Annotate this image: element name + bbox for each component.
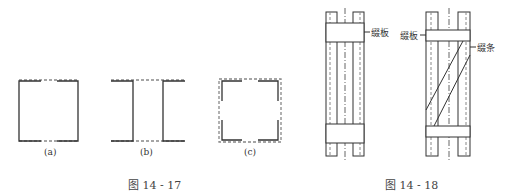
figure-14-17a xyxy=(19,80,78,141)
figure-14-17c xyxy=(219,79,281,142)
subfigure-label-b: (b) xyxy=(140,147,153,157)
lacing-bar-label: 缀条 xyxy=(477,41,495,54)
diagram-canvas xyxy=(0,0,508,196)
batten-plate-label-right: 缀板 xyxy=(400,29,418,42)
figure-14-18-right xyxy=(420,8,476,160)
figure-14-17b xyxy=(111,80,185,141)
caption-14-18: 图 14 - 18 xyxy=(385,176,438,192)
subfigure-label-c: (c) xyxy=(244,147,256,157)
batten-plate-label-left: 缀板 xyxy=(371,26,389,39)
figure-14-18-left xyxy=(326,8,370,160)
subfigure-label-a: (a) xyxy=(44,147,56,157)
caption-14-17: 图 14 - 17 xyxy=(128,176,181,192)
